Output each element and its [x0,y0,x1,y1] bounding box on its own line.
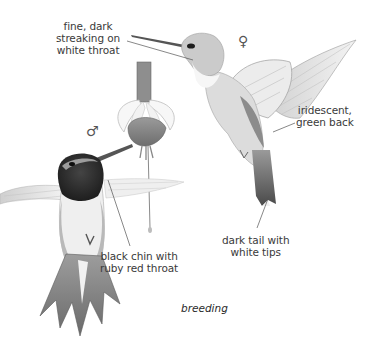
label-line: iridescent, [296,104,354,116]
label-female-tail: dark tail with white tips [222,234,289,258]
label-line: black chin with [100,250,178,262]
label-female-throat: fine, dark streaking on white throat [56,20,120,56]
caption-breeding: breeding [181,302,228,314]
label-male-throat: black chin with ruby red throat [100,250,178,274]
label-line: ruby red throat [100,262,178,274]
male-symbol-icon: ♂ [86,124,99,138]
label-line: dark tail with [222,234,289,246]
label-line: white throat [56,44,120,56]
illustration-figure: fine, dark streaking on white throat iri… [0,0,371,343]
label-line: streaking on [56,32,120,44]
label-female-back: iridescent, green back [296,104,354,128]
label-line: green back [296,116,354,128]
label-line: white tips [222,246,289,258]
label-line: fine, dark [56,20,120,32]
female-symbol-icon: ♀ [238,34,248,48]
male-hummingbird [0,144,184,336]
